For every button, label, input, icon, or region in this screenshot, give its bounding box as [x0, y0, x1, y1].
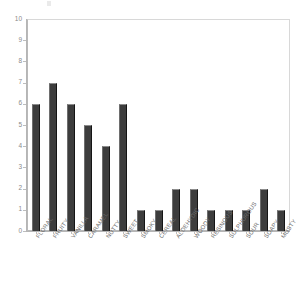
bar-slot	[32, 19, 40, 231]
bar-slot	[84, 19, 92, 231]
y-axis-tick-mark	[23, 210, 26, 211]
bar-slot	[260, 19, 268, 231]
bar-slot	[155, 19, 163, 231]
y-axis-tick-mark	[23, 189, 26, 190]
bar-slot	[137, 19, 145, 231]
y-axis-tick-mark	[23, 167, 26, 168]
bar-slot	[190, 19, 198, 231]
bar-slot	[102, 19, 110, 231]
y-axis-tick-mark	[23, 83, 26, 84]
bar-series	[27, 19, 290, 231]
y-axis-tick-label: 7	[0, 79, 22, 86]
bar	[260, 189, 268, 231]
top-edge-artifact	[47, 1, 51, 6]
bar	[119, 104, 127, 231]
bar-slot	[225, 19, 233, 231]
y-axis-tick-label: 10	[0, 16, 22, 23]
y-axis-tick-label: 6	[0, 100, 22, 107]
y-axis-tick-label: 3	[0, 164, 22, 171]
y-axis-tick-mark	[23, 40, 26, 41]
bar	[67, 104, 75, 231]
y-axis-tick-mark	[23, 104, 26, 105]
bar-slot	[172, 19, 180, 231]
y-axis-tick-label: 0	[0, 228, 22, 235]
bar-slot	[242, 19, 250, 231]
bar-chart: 109876543210 FLORALFRUITYVANILLACARAMELN…	[0, 0, 301, 305]
bar	[49, 83, 57, 231]
y-axis-tick-mark	[23, 61, 26, 62]
bar-slot	[67, 19, 75, 231]
bar-slot	[119, 19, 127, 231]
bar-slot	[207, 19, 215, 231]
y-axis-tick-label: 5	[0, 122, 22, 129]
y-axis-tick-label: 2	[0, 185, 22, 192]
y-axis-tick-mark	[23, 231, 26, 232]
bar	[32, 104, 40, 231]
y-axis-tick-label: 4	[0, 143, 22, 150]
y-axis-tick-mark	[23, 125, 26, 126]
y-axis-tick-mark	[23, 146, 26, 147]
bar-slot	[277, 19, 285, 231]
y-axis-tick-label: 1	[0, 206, 22, 213]
x-axis-category-labels: FLORALFRUITYVANILLACARAMELNUTTYSWEETSMOK…	[27, 232, 290, 305]
y-axis-tick-label: 9	[0, 37, 22, 44]
y-axis-tick-label: 8	[0, 58, 22, 65]
bar-slot	[49, 19, 57, 231]
